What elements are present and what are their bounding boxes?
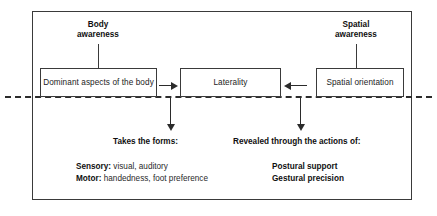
arrow-left-icon	[284, 81, 314, 90]
arrow-head	[284, 82, 291, 90]
arrow-head	[297, 124, 305, 131]
arrow-head	[171, 82, 178, 90]
detail-item-motor: Motor: handedness, foot preference	[76, 173, 208, 185]
detail-list-actions: Postural support Gestural precision	[272, 161, 344, 186]
detail-item-postural-support: Postural support	[272, 161, 344, 173]
arrow-shaft	[291, 85, 307, 86]
detail-value-sensory: visual, auditory	[111, 162, 168, 171]
detail-list-forms: Sensory: visual, auditory Motor: handedn…	[76, 161, 208, 186]
lead-takes-the-forms: Takes the forms:	[113, 137, 178, 146]
arrow-down-left-icon	[166, 97, 175, 132]
detail-item-gestural-precision: Gestural precision	[272, 173, 344, 185]
caption-body-awareness: Body awareness	[48, 20, 148, 41]
arrow-shaft	[300, 97, 301, 126]
connector-body-awareness	[98, 44, 99, 68]
arrow-right-icon	[159, 81, 179, 90]
node-spatial-orientation: Spatial orientation	[316, 68, 404, 97]
detail-item-sensory: Sensory: visual, auditory	[76, 161, 208, 173]
arrow-head	[167, 124, 175, 131]
arrow-shaft	[170, 97, 171, 126]
diagram-canvas: Body awareness Spatial awareness Dominan…	[0, 0, 437, 216]
detail-value-motor: handedness, foot preference	[101, 174, 208, 183]
arrow-down-right-icon	[296, 97, 305, 132]
lead-revealed-through-actions: Revealed through the actions of:	[233, 137, 360, 146]
node-dominant-aspects-of-the-body: Dominant aspects of the body	[40, 68, 157, 97]
caption-spatial-awareness: Spatial awareness	[306, 20, 406, 41]
node-laterality: Laterality	[180, 68, 281, 97]
connector-spatial-awareness	[356, 44, 357, 68]
detail-label-sensory: Sensory:	[76, 162, 111, 171]
detail-label-motor: Motor:	[76, 174, 101, 183]
